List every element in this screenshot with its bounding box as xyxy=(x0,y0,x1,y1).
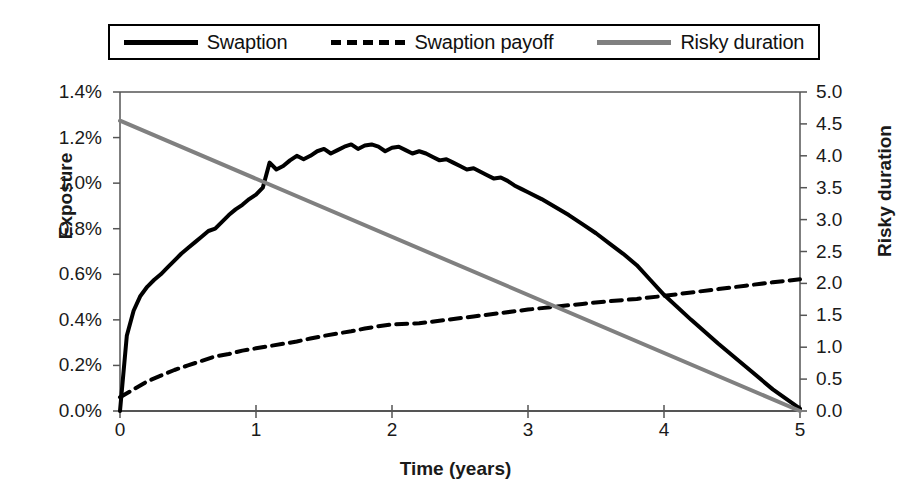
series-line-swaption xyxy=(120,144,800,411)
chart-figure: Swaption Swaption payoff Risky duration … xyxy=(0,0,911,502)
series-line-swaption-payoff xyxy=(120,279,800,397)
plot-area xyxy=(0,0,911,502)
